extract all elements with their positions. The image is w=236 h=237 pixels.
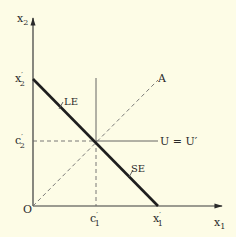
le-label: LE [64,96,78,107]
budget-line [33,79,158,206]
se-label: SE [131,163,145,174]
u-equals-u-prime-label: U = U′ [160,135,198,148]
c2-prime-label: c′2 [15,133,25,150]
c1-prime-label: c′1 [90,211,100,228]
x-axis-label: x1 [214,216,225,231]
x1-prime-label: x′1 [153,211,163,228]
budget-diagram: x2 x1 O x′2 c′2 c′1 x′1 A U = U′ LE SE [0,0,236,237]
origin-label: O [23,203,32,216]
point-a-label: A [157,72,167,85]
y-axis-label: x2 [17,12,28,27]
x2-prime-label: x′2 [15,71,25,88]
